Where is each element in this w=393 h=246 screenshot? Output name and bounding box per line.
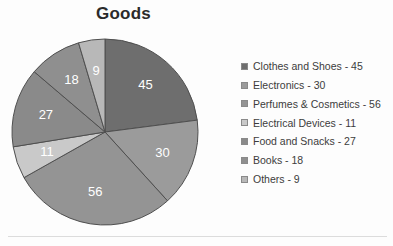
pie-slice-value-label: 9 [93, 63, 100, 78]
legend-swatch-icon [241, 176, 248, 183]
legend-item[interactable]: Books - 18 [241, 151, 391, 170]
pie-slice-value-label: 27 [39, 107, 53, 122]
legend-swatch-icon [241, 157, 248, 164]
pie-slice-value-label: 30 [155, 145, 169, 160]
pie-slice-value-label: 11 [40, 144, 54, 159]
legend-item[interactable]: Electrical Devices - 11 [241, 113, 391, 132]
pie-svg: 4530561127189 [0, 26, 232, 232]
legend-item-label: Perfumes & Cosmetics - 56 [253, 99, 381, 110]
legend-item[interactable]: Perfumes & Cosmetics - 56 [241, 95, 391, 114]
legend-swatch-icon [241, 82, 248, 89]
legend-item-label: Electrical Devices - 11 [253, 118, 356, 129]
pie-slice-value-label: 56 [88, 184, 102, 199]
footer-divider [8, 236, 387, 237]
pie-slice-group [12, 39, 198, 225]
legend-item-label: Books - 18 [253, 155, 303, 166]
chart-legend: Clothes and Shoes - 45Electronics - 30Pe… [241, 57, 391, 189]
chart-title: Goods [0, 4, 247, 24]
legend-item-label: Electronics - 30 [253, 80, 325, 91]
legend-swatch-icon [241, 119, 248, 126]
pie-chart-figure: Goods 4530561127189 Clothes and Shoes - … [0, 0, 393, 246]
legend-swatch-icon [241, 138, 248, 145]
legend-item-label: Others - 9 [253, 174, 300, 185]
legend-swatch-icon [241, 100, 248, 107]
legend-item[interactable]: Food and Snacks - 27 [241, 132, 391, 151]
pie-slice-value-label: 45 [138, 77, 152, 92]
pie-slice-value-label: 18 [64, 72, 78, 87]
legend-item-label: Food and Snacks - 27 [253, 136, 356, 147]
legend-item[interactable]: Clothes and Shoes - 45 [241, 57, 391, 76]
legend-item[interactable]: Electronics - 30 [241, 76, 391, 95]
pie-plot-area: 4530561127189 [0, 26, 232, 232]
legend-item-label: Clothes and Shoes - 45 [253, 61, 363, 72]
legend-swatch-icon [241, 63, 248, 70]
legend-item[interactable]: Others - 9 [241, 170, 391, 189]
